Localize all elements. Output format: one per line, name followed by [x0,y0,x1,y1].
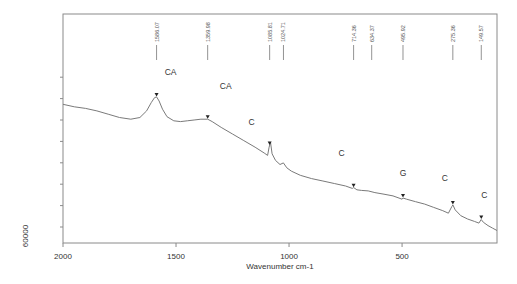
peak-marker-label: 495.92 [400,25,406,42]
peak-annotation-label: G [400,168,407,178]
peak-arrow-icon [451,201,455,205]
peak-arrow-icon [479,216,483,220]
peak-marker-label: 1586.07 [154,22,160,42]
peak-marker-label: 149.57 [478,25,484,42]
y-axis-title: 60000 [21,224,30,247]
peak-markers: 1586.071359.981085.811024.71714.36634.37… [154,22,485,60]
peak-marker-label: 1085.81 [267,22,273,42]
x-tick-label: 1000 [280,252,298,261]
peak-annotation-label: CA [165,67,177,77]
peak-annotation-label: C [249,117,255,127]
peak-arrow-icon [401,194,405,198]
x-tick-label: 500 [395,252,409,261]
x-axis-ticks: 200015001000500 [54,243,409,261]
peak-arrow-icon [206,115,210,119]
plot-frame [63,14,497,243]
peak-annotation-label: CA [220,81,232,91]
x-tick-label: 2000 [54,252,72,261]
peak-arrow-icon [352,184,356,188]
peak-marker-label: 1359.98 [205,22,211,42]
raman-spectrum-chart: 200015001000500 1586.071359.981085.81102… [0,0,517,284]
peak-arrow-icon [155,93,159,97]
peak-marker-label: 1024.71 [280,22,286,42]
spectrum-line [63,97,497,231]
peak-marker-label: 714.36 [351,25,357,42]
peak-annotation-label: C [442,173,448,183]
x-tick-label: 1500 [167,252,185,261]
peak-annotations: CACACCGCC [155,67,488,219]
x-axis-title: Wavenumber cm-1 [246,262,314,271]
peak-annotation-label: C [481,190,487,200]
peak-marker-label: 634.37 [369,25,375,42]
peak-annotation-label: C [339,148,345,158]
peak-marker-label: 275.36 [450,25,456,42]
